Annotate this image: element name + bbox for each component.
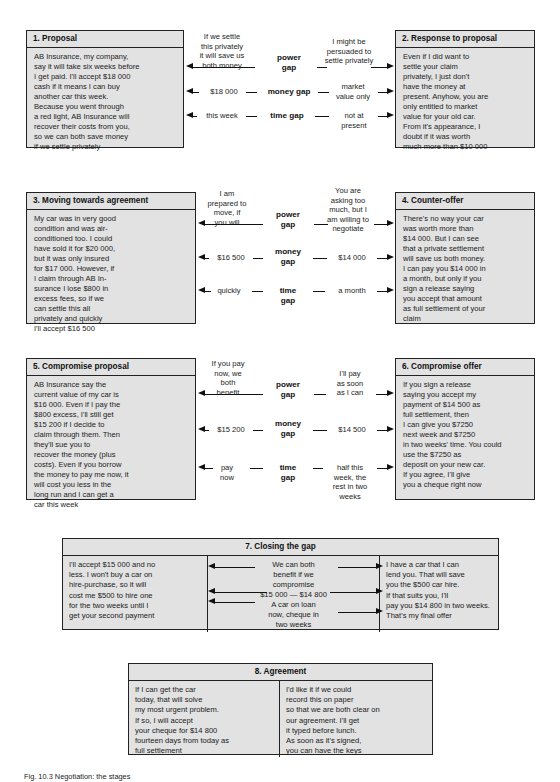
closing-middle: We can both benefit if we compromise $15… <box>208 556 380 632</box>
row-3-time-gap-label: time gap <box>264 463 312 482</box>
row-3-time-line-right <box>377 468 387 469</box>
row-3-money-line-left <box>205 430 209 431</box>
row-1-left-power-label: If we settle this privately it will save… <box>190 32 254 70</box>
closing-arrow-right-2 <box>376 588 383 594</box>
row-1-power-arrow-right <box>387 63 394 69</box>
row-2-time-line-left <box>205 291 211 292</box>
row-3-money-arrow-right <box>387 426 394 432</box>
row-3-time-arrow-left <box>198 464 205 470</box>
row-2-money-arrow-left <box>198 254 205 260</box>
stage-panel-3-body: My car was in very good condition and wa… <box>27 210 195 338</box>
row-1-time-line-left <box>193 116 197 117</box>
row-3-power-line-left <box>205 394 263 395</box>
row-3-money-gap-label: money gap <box>262 419 314 438</box>
stage-panel-1-title: 1. Proposal <box>27 31 183 48</box>
row-3-right-power-label: I'll pay as soon as I can <box>322 369 378 398</box>
stage-panel-5: 5. Compromise proposal AB Insurance say … <box>26 358 196 500</box>
negotiation-stages-diagram: 1. Proposal AB Insurance, my company, sa… <box>0 0 560 782</box>
row-2-money-gap-label: money gap <box>262 247 314 266</box>
row-3-time-line-mid <box>250 468 263 469</box>
closing-line-right-3 <box>338 612 376 613</box>
row-1-time-line-right <box>378 116 387 117</box>
row-1-money-line-right <box>378 92 387 93</box>
row-2-power-arrow-right <box>387 220 394 226</box>
row-3-left-money-label: $15 200 <box>204 425 258 435</box>
row-1-power-arrow-left <box>186 63 193 69</box>
row-1-left-time-label: this week <box>194 111 250 121</box>
stage-panel-8-columns: If I can get the car today, that will so… <box>129 681 432 757</box>
stage-panel-4-body: There's no way your car was worth more t… <box>396 210 534 328</box>
row-2-time-line-right <box>377 291 387 292</box>
stage-panel-7-columns: I'll accept $15 000 and no less. I won't… <box>63 556 498 632</box>
closing-right-text: I have a car that I can lend you. That w… <box>380 556 498 632</box>
row-2-time-arrow-right <box>387 287 394 293</box>
row-3-left-time-label: pay now <box>202 463 252 482</box>
row-1-right-money-label: market value only <box>327 82 379 101</box>
row-2-time-gap-label: time gap <box>264 286 312 305</box>
row-2-time-line-mid <box>252 291 263 292</box>
row-2-power-line-right <box>314 224 328 225</box>
row-2-money-line-right <box>377 258 387 259</box>
row-2-left-money-label: $16 500 <box>204 253 258 263</box>
row-1-left-money-label: $18 000 <box>196 87 252 97</box>
row-1-money-line-mid2 <box>318 92 329 93</box>
row-3-power-line-far-right <box>376 394 387 395</box>
stage-panel-6: 6. Compromise offer If you sign a releas… <box>395 358 535 500</box>
row-1-power-line-far-right <box>371 67 387 68</box>
closing-line-left-2 <box>215 592 267 593</box>
row-3-power-arrow-right <box>387 390 394 396</box>
row-1-power-line-right <box>317 67 327 68</box>
closing-arrow-right-3 <box>376 608 383 614</box>
row-3-money-line-mid2 <box>313 430 327 431</box>
row-3-left-power-label: If you pay now, we both benefit <box>200 359 256 397</box>
closing-arrow-left-2 <box>208 588 215 594</box>
stage-panel-6-title: 6. Compromise offer <box>396 359 534 376</box>
stage-panel-2-title: 2. Response to proposal <box>396 31 534 48</box>
stage-panel-2-body: Even if I did want to settle your claim … <box>396 48 534 156</box>
closing-arrow-right-1 <box>376 563 383 569</box>
row-1-right-power-label: I might be persuaded to settle privately <box>318 37 380 66</box>
stage-panel-4-title: 4. Counter-offer <box>396 193 534 210</box>
stage-panel-7: 7. Closing the gap I'll accept $15 000 a… <box>62 538 499 630</box>
row-3-time-arrow-right <box>387 464 394 470</box>
row-3-power-line-right <box>314 394 326 395</box>
agreement-left-text: If I can get the car today, that will so… <box>129 681 280 757</box>
stage-panel-8-title: 8. Agreement <box>129 664 432 681</box>
row-2-power-arrow-left <box>198 220 205 226</box>
row-2-time-line-mid2 <box>313 291 325 292</box>
stage-panel-8: 8. Agreement If I can get the car today,… <box>128 663 433 755</box>
row-1-money-arrow-left <box>186 88 193 94</box>
row-2-money-line-mid2 <box>313 258 327 259</box>
row-3-power-arrow-left <box>198 390 205 396</box>
row-3-money-arrow-left <box>198 426 205 432</box>
closing-left-text: I'll accept $15 000 and no less. I won't… <box>63 556 208 632</box>
row-2-power-line-far-right <box>374 224 387 225</box>
row-2-right-power-label: You are asking too much, but I am willin… <box>318 186 378 234</box>
row-2-left-power-label: I am prepared to move, if you will <box>198 189 256 227</box>
row-3-right-money-label: $14 500 <box>326 425 378 435</box>
row-1-power-line-left <box>193 67 255 68</box>
closing-line-right-2 <box>330 592 376 593</box>
row-1-time-line-mid <box>246 116 257 117</box>
closing-arrow-left-1 <box>208 563 215 569</box>
row-1-money-line-left <box>193 92 199 93</box>
row-1-money-arrow-right <box>387 88 394 94</box>
row-1-time-line-mid2 <box>315 116 329 117</box>
stage-panel-5-title: 5. Compromise proposal <box>27 359 195 376</box>
stage-panel-7-title: 7. Closing the gap <box>63 539 498 556</box>
row-1-power-gap-label: power gap <box>265 53 313 72</box>
row-2-time-arrow-left <box>198 287 205 293</box>
row-3-time-line-mid2 <box>313 468 323 469</box>
closing-middle-line-3: A car on loan now, cheque in two weeks <box>208 600 379 630</box>
stage-panel-4: 4. Counter-offer There's no way your car… <box>395 192 535 324</box>
row-1-money-line-mid <box>246 92 257 93</box>
row-2-right-time-label: a month <box>326 286 378 296</box>
row-2-money-arrow-right <box>387 254 394 260</box>
stage-panel-3: 3. Moving towards agreement My car was i… <box>26 192 196 324</box>
stage-panel-2: 2. Response to proposal Even if I did wa… <box>395 30 535 148</box>
stage-panel-5-body: AB Insurance say the current value of my… <box>27 376 195 514</box>
closing-line-left-3 <box>215 602 255 603</box>
row-2-power-line-left <box>205 224 263 225</box>
row-1-time-gap-label: time gap <box>256 111 318 121</box>
agreement-right-text: I'd like it if we could record this on p… <box>280 681 431 757</box>
